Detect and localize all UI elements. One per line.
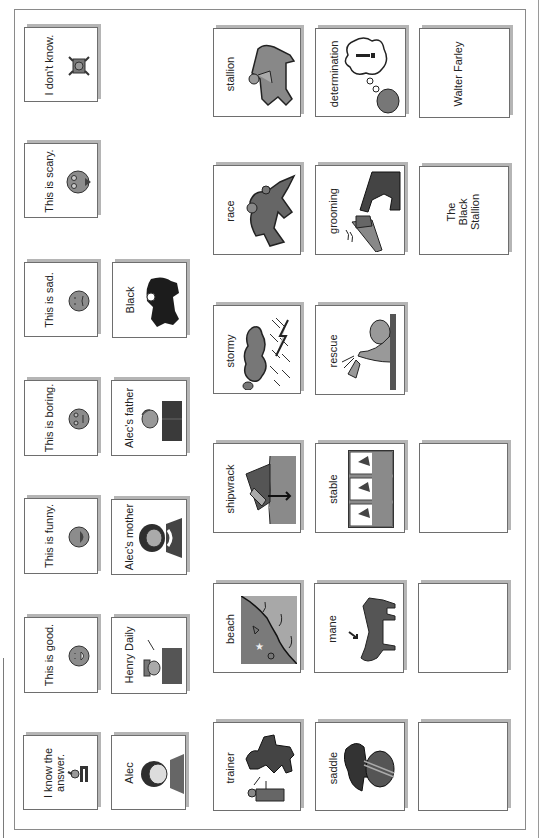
man-portrait-icon — [140, 397, 184, 443]
card-label: beach — [224, 594, 238, 664]
card-label: determination — [328, 29, 342, 119]
card-stormy[interactable]: stormy — [213, 305, 301, 394]
card-sad[interactable]: This is sad. — [24, 262, 98, 337]
card-label: stallion — [224, 39, 238, 109]
card-label: saddle — [327, 728, 341, 808]
horse-mane-icon — [343, 592, 399, 668]
card-label: rescue — [327, 311, 341, 391]
page-edge-right — [538, 0, 539, 838]
laughing-face-icon — [67, 525, 91, 549]
card-label: stormy — [224, 316, 238, 386]
card-alecs-mother[interactable]: Alec's mother — [111, 499, 187, 575]
reaching-hand-icon — [340, 312, 402, 392]
card-label: shipwrack — [224, 454, 238, 524]
card-label: trainer — [224, 733, 238, 803]
card-label: This is sad. — [43, 265, 69, 335]
card-label: Alec — [123, 735, 137, 811]
black-horse-icon — [137, 271, 183, 331]
card-beach[interactable]: beach ★ — [213, 583, 301, 673]
racing-horse-icon — [240, 172, 298, 252]
card-label: This is boring. — [43, 383, 69, 453]
thought-bubble-icon — [342, 35, 402, 115]
card-label: Alec's mother — [123, 499, 137, 575]
boy-portrait-icon — [140, 750, 184, 798]
shrug-person-icon — [67, 53, 91, 79]
card-boring[interactable]: This is boring. — [24, 380, 98, 456]
bored-face-icon — [67, 407, 91, 431]
card-label: stable — [327, 449, 341, 529]
card-label: Black — [124, 270, 138, 330]
card-race[interactable]: race — [213, 165, 301, 255]
card-saddle[interactable]: saddle — [315, 722, 405, 811]
card-stable[interactable]: stable — [315, 443, 405, 533]
card-stallion[interactable]: stallion — [213, 28, 301, 117]
card-label: Alec's father — [123, 380, 137, 456]
raised-hand-person-icon — [66, 762, 90, 786]
card-determination[interactable]: determination — [315, 28, 406, 117]
sinking-ship-icon — [242, 452, 298, 528]
man-with-hat-icon — [140, 632, 184, 686]
svg-text:★: ★ — [255, 641, 264, 652]
card-shipwrack[interactable]: shipwrack — [213, 443, 301, 533]
card-blank-3[interactable] — [418, 722, 508, 811]
card-label: This is funny. — [43, 501, 69, 571]
card-book-title[interactable]: The Black Stallion — [419, 166, 509, 255]
card-rescue[interactable]: rescue — [315, 305, 405, 395]
card-funny[interactable]: This is funny. — [24, 498, 98, 574]
card-alec[interactable]: Alec — [111, 735, 186, 810]
sad-face-icon — [67, 289, 91, 313]
card-grooming[interactable]: grooming — [315, 165, 405, 255]
card-label: This is good. — [43, 620, 69, 690]
scared-face-icon — [65, 168, 93, 196]
horse-stalls-icon — [348, 450, 394, 528]
brush-horse-icon — [342, 170, 402, 252]
card-blank-2[interactable] — [418, 583, 508, 673]
woman-portrait-icon — [138, 512, 184, 564]
card-know-answer[interactable]: I know the answer. — [23, 735, 98, 810]
card-label: grooming — [327, 171, 341, 251]
page-edge-left — [3, 658, 4, 838]
card-label: race — [224, 176, 238, 246]
card-author[interactable]: Walter Farley — [419, 28, 510, 118]
card-trainer[interactable]: trainer — [213, 722, 301, 811]
card-scary[interactable]: This is scary. — [24, 143, 98, 218]
saddle-icon — [342, 739, 398, 801]
card-blank-1[interactable] — [419, 443, 508, 533]
card-henry-daily[interactable]: Henry Daily — [111, 617, 187, 694]
card-label: Walter Farley — [452, 39, 478, 109]
horse-rider-icon — [242, 39, 298, 111]
trainer-horse-icon — [240, 729, 298, 809]
beach-shore-icon: ★ — [241, 596, 297, 664]
card-label: The Black Stallion — [445, 160, 483, 264]
card-label: I don't know. — [43, 30, 69, 100]
card-label: mane — [326, 589, 340, 669]
storm-cloud-icon — [240, 314, 298, 390]
happy-face-icon — [67, 644, 91, 668]
card-dont-know[interactable]: I don't know. — [24, 27, 98, 102]
card-good[interactable]: This is good. — [24, 617, 98, 693]
card-alecs-father[interactable]: Alec's father — [111, 380, 187, 456]
card-black[interactable]: Black — [112, 262, 187, 338]
card-label: I know the answer. — [42, 738, 68, 808]
card-mane[interactable]: mane — [314, 583, 404, 673]
card-label: Henry Daily — [123, 617, 137, 693]
